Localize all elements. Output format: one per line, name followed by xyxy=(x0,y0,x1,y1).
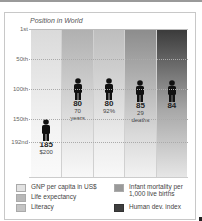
column-human-dev-index: 84 xyxy=(157,29,187,177)
chart-title: Position in World xyxy=(30,17,83,24)
legend-swatch xyxy=(114,204,124,212)
y-tick-label: 100th xyxy=(2,86,28,92)
person-icon xyxy=(41,119,51,141)
column-gnp: 185 $200 xyxy=(31,29,62,177)
value-label: 80 xyxy=(94,100,124,108)
gridline xyxy=(29,29,188,30)
legend-swatch xyxy=(16,204,26,212)
value-label: 84 xyxy=(157,102,187,110)
legend-item-human-dev-index: Human dev. index xyxy=(114,203,181,212)
legend-label: Infant mortality per1,000 live births xyxy=(129,183,183,197)
gridline xyxy=(29,119,188,120)
figure-gnp: 185 $200 xyxy=(31,119,61,156)
y-tick-label: 150th xyxy=(2,116,28,122)
legend-swatch xyxy=(16,184,26,192)
legend-item-infant-mortality: Infant mortality per1,000 live births xyxy=(114,183,183,197)
legend-swatch xyxy=(114,184,124,192)
corner-mark xyxy=(199,217,202,221)
legend-swatch xyxy=(16,194,26,202)
column-infant-mortality: 85 29 deaths xyxy=(125,29,156,177)
legend-item-gnp: GNP per capita in US$ xyxy=(16,183,97,192)
figure-infant-mortality: 85 29 deaths xyxy=(125,80,155,124)
top-border xyxy=(0,0,202,2)
figure-human-dev-index: 84 xyxy=(157,80,187,110)
legend-label: Life expectancy xyxy=(31,193,76,200)
gridline xyxy=(29,142,188,143)
legend-item-life-expectancy: Life expectancy xyxy=(16,193,76,202)
person-icon xyxy=(135,80,145,102)
y-tick-label: 50th xyxy=(2,56,28,62)
column-literacy: 80 92% xyxy=(94,29,125,177)
value-label: 85 xyxy=(125,102,155,110)
column-life-expectancy: 80 70 years xyxy=(62,29,93,177)
legend-label-line1: Infant mortality per xyxy=(129,183,183,190)
legend-label: Literacy xyxy=(31,203,54,210)
figure-life-expectancy: 80 70 years xyxy=(63,78,93,122)
legend-label-line2: 1,000 live births xyxy=(129,190,175,197)
value-label: 80 xyxy=(63,100,93,108)
chart-area: 185 $200 80 70 years 80 92% 85 29 deaths… xyxy=(31,29,187,177)
gridline xyxy=(29,89,188,90)
legend-label: GNP per capita in US$ xyxy=(31,183,97,190)
sub-label: 29 xyxy=(125,110,155,117)
person-icon xyxy=(167,80,177,102)
baseline xyxy=(29,177,188,178)
figure-literacy: 80 92% xyxy=(94,78,124,115)
sub-label: $200 xyxy=(31,149,61,156)
sub-label: 92% xyxy=(94,108,124,115)
legend-item-literacy: Literacy xyxy=(16,203,54,212)
legend-label: Human dev. index xyxy=(129,203,181,210)
sub-label: 70 xyxy=(63,108,93,115)
y-tick-label: 192nd xyxy=(2,139,28,145)
y-tick-label: 1st xyxy=(2,26,28,32)
gridline xyxy=(29,59,188,60)
